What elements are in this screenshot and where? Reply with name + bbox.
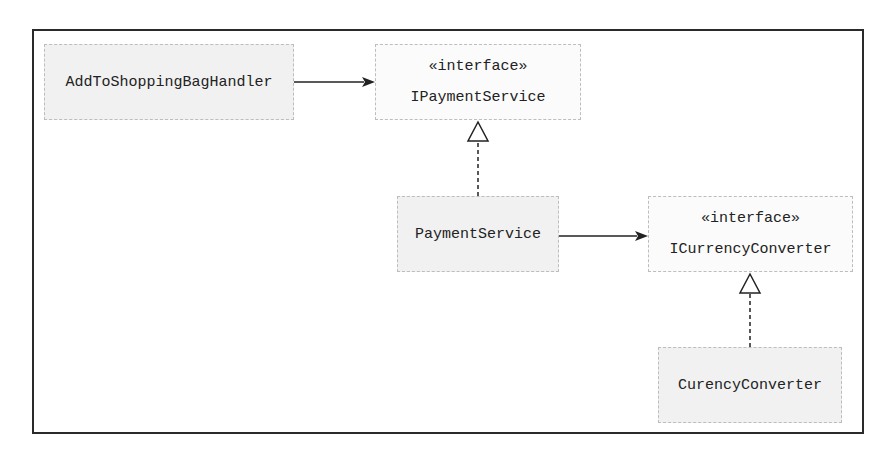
connectors bbox=[0, 0, 896, 456]
realization-payment-to-ipayment bbox=[468, 122, 488, 196]
dependency-arrow-handler-to-ipayment bbox=[294, 77, 375, 87]
dependency-arrow-payment-to-icurrency bbox=[559, 231, 648, 241]
realization-currency-to-icurrency bbox=[740, 274, 760, 347]
